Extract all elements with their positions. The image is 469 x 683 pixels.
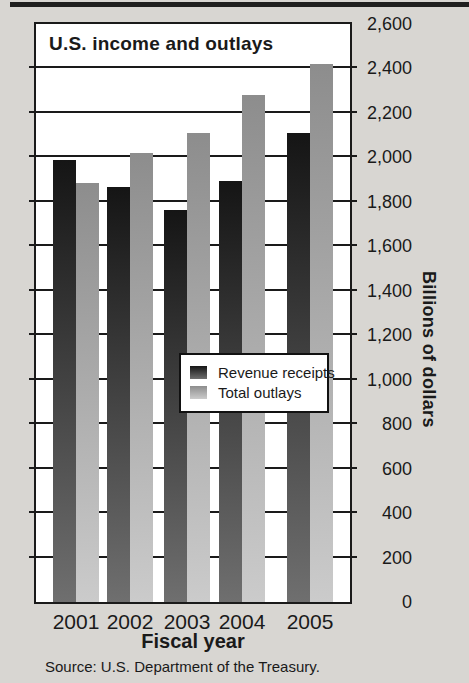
bar-revenue-receipts-2002 [107, 187, 130, 602]
y-tick-label-1000: 1,000 [367, 369, 412, 390]
y-tick-label-1400: 1,400 [367, 280, 412, 301]
bar-total-outlays-2005 [310, 64, 333, 602]
bar-group-2004 [219, 24, 265, 602]
y-tick-label-0: 0 [402, 592, 412, 613]
y-axis-tick-labels: 2,6002,4002,2002,0001,8001,6001,4001,200… [358, 24, 412, 602]
y-axis-title: Billions of dollars [414, 264, 442, 434]
y-tick-label-400: 400 [382, 503, 412, 524]
bar-total-outlays-2004 [242, 95, 265, 602]
y-tick-label-1800: 1,800 [367, 191, 412, 212]
bar-revenue-receipts-2001 [53, 160, 76, 602]
y-tick-label-800: 800 [382, 414, 412, 435]
legend-box: Revenue receipts Total outlays [179, 353, 329, 413]
source-note: Source: U.S. Department of the Treasury. [45, 658, 320, 675]
y-tick-label-2000: 2,000 [367, 147, 412, 168]
chart-title: U.S. income and outlays [36, 24, 350, 55]
top-rule-divider [10, 2, 469, 7]
bar-group-2002 [107, 24, 153, 602]
y-tick-label-1600: 1,600 [367, 236, 412, 257]
legend-swatch-outlays [190, 386, 207, 399]
y-tick-label-200: 200 [382, 547, 412, 568]
plot-area: Revenue receipts Total outlays U.S. inco… [34, 22, 352, 604]
bar-group-2005 [287, 24, 333, 602]
legend-item-total-outlays: Total outlays [190, 384, 319, 401]
y-tick-label-2600: 2,600 [367, 14, 412, 35]
bar-total-outlays-2002 [130, 153, 153, 602]
legend-item-revenue-receipts: Revenue receipts [190, 364, 319, 381]
y-tick-label-600: 600 [382, 458, 412, 479]
figure: Revenue receipts Total outlays U.S. inco… [0, 0, 469, 683]
legend-label-revenue-receipts: Revenue receipts [218, 364, 335, 381]
y-tick-label-2400: 2,400 [367, 58, 412, 79]
bar-group-2003 [164, 24, 210, 602]
x-axis-title: Fiscal year [34, 630, 352, 653]
bar-total-outlays-2001 [76, 183, 99, 602]
legend-swatch-receipts [190, 366, 207, 379]
y-tick-label-1200: 1,200 [367, 325, 412, 346]
bar-group-2001 [53, 24, 99, 602]
legend-label-total-outlays: Total outlays [218, 384, 301, 401]
y-tick-label-2200: 2,200 [367, 102, 412, 123]
